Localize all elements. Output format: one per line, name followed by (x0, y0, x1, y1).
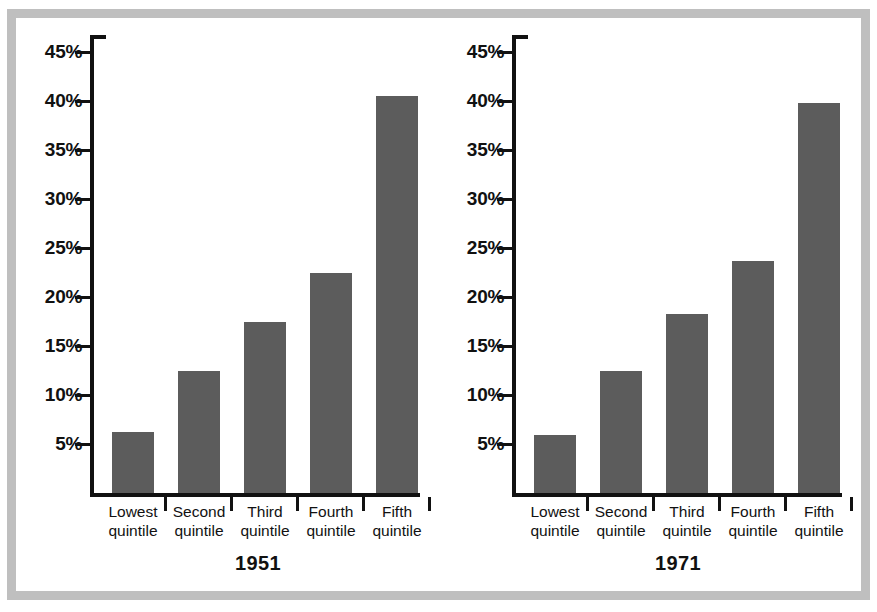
category-label-line2: quintile (654, 521, 720, 540)
bar (534, 435, 576, 493)
category-label-line2: quintile (588, 521, 654, 540)
x-axis-category-labels-1971: LowestquintileSecondquintileThirdquintil… (512, 502, 842, 548)
x-axis-category-label: Fifthquintile (364, 502, 430, 540)
y-axis-tick-label: 40% (467, 90, 504, 112)
chart-title-1971: 1971 (438, 552, 860, 575)
y-axis-tick-label: 20% (467, 286, 504, 308)
bar (244, 322, 286, 494)
x-axis-category-labels-1951: LowestquintileSecondquintileThirdquintil… (90, 502, 420, 548)
chart-panel-1951: 5%10%15%20%25%30%35%40%45% Lowestquintil… (16, 18, 438, 591)
y-axis-tick-label: 45% (467, 41, 504, 63)
x-axis-line (90, 493, 420, 497)
category-label-line1: Second (588, 502, 654, 521)
y-axis-top-cap (512, 35, 528, 39)
y-axis-tick-label: 25% (467, 237, 504, 259)
category-label-line2: quintile (364, 521, 430, 540)
category-label-line1: Third (232, 502, 298, 521)
category-label-line2: quintile (786, 521, 852, 540)
x-axis-category-label: Thirdquintile (232, 502, 298, 540)
category-label-line1: Fourth (720, 502, 786, 521)
y-axis-tick-label: 30% (467, 188, 504, 210)
bar (600, 371, 642, 494)
y-axis-tick-label: 25% (45, 237, 82, 259)
category-label-line1: Lowest (100, 502, 166, 521)
plot-area-1951: 5%10%15%20%25%30%35%40%45% (90, 35, 420, 497)
category-label-line1: Second (166, 502, 232, 521)
chart-panels: 5%10%15%20%25%30%35%40%45% Lowestquintil… (16, 18, 861, 591)
category-label-line2: quintile (720, 521, 786, 540)
y-axis-tick-label: 35% (45, 139, 82, 161)
x-axis-category-label: Fifthquintile (786, 502, 852, 540)
y-axis-tick-label: 10% (467, 384, 504, 406)
y-axis-tick-label: 10% (45, 384, 82, 406)
bar (178, 371, 220, 494)
category-label-line2: quintile (522, 521, 588, 540)
bar (376, 96, 418, 493)
x-axis-category-label: Thirdquintile (654, 502, 720, 540)
y-axis-tick-label: 15% (45, 335, 82, 357)
y-axis-tick-label: 40% (45, 90, 82, 112)
y-axis-line (90, 35, 94, 497)
y-axis-tick-label: 15% (467, 335, 504, 357)
y-axis-tick-label: 45% (45, 41, 82, 63)
x-axis-category-label: Lowestquintile (522, 502, 588, 540)
category-label-line1: Fifth (786, 502, 852, 521)
x-axis-category-label: Secondquintile (166, 502, 232, 540)
x-axis-category-label: Fourthquintile (720, 502, 786, 540)
x-axis-category-label: Lowestquintile (100, 502, 166, 540)
x-axis-category-label: Secondquintile (588, 502, 654, 540)
category-label-line2: quintile (232, 521, 298, 540)
y-axis-tick-label: 35% (467, 139, 504, 161)
y-axis-tick-label: 30% (45, 188, 82, 210)
bar (666, 314, 708, 493)
bar (112, 432, 154, 493)
category-label-line2: quintile (100, 521, 166, 540)
bar (798, 103, 840, 493)
y-axis-tick-label: 5% (55, 433, 82, 455)
y-axis-tick-label: 20% (45, 286, 82, 308)
x-axis-line (512, 493, 842, 497)
figure-root: 5%10%15%20%25%30%35%40%45% Lowestquintil… (0, 0, 877, 612)
bar (310, 273, 352, 494)
category-label-line1: Third (654, 502, 720, 521)
x-axis-category-label: Fourthquintile (298, 502, 364, 540)
y-axis-line (512, 35, 516, 497)
category-label-line2: quintile (166, 521, 232, 540)
chart-title-1951: 1951 (16, 552, 438, 575)
plot-area-1971: 5%10%15%20%25%30%35%40%45% (512, 35, 842, 497)
bar (732, 261, 774, 493)
y-axis-tick-label: 5% (477, 433, 504, 455)
chart-panel-1971: 5%10%15%20%25%30%35%40%45% Lowestquintil… (438, 18, 860, 591)
category-label-line1: Lowest (522, 502, 588, 521)
category-label-line2: quintile (298, 521, 364, 540)
y-axis-top-cap (90, 35, 106, 39)
category-label-line1: Fifth (364, 502, 430, 521)
category-label-line1: Fourth (298, 502, 364, 521)
